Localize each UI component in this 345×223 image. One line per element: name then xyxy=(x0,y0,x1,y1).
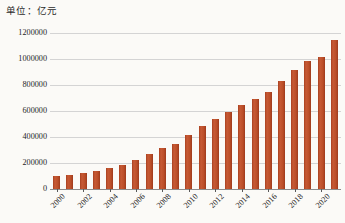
x-tick-mark xyxy=(215,189,216,192)
x-tick-label: 2010 xyxy=(181,192,199,210)
x-tick-label: 2018 xyxy=(287,192,305,210)
bar xyxy=(159,148,166,190)
bar xyxy=(291,70,298,190)
x-tick-mark xyxy=(268,189,269,192)
x-tick-mark xyxy=(189,189,190,192)
bar xyxy=(66,175,73,189)
bar xyxy=(265,92,272,189)
x-tick-mark xyxy=(321,189,322,192)
bar xyxy=(278,81,285,189)
gridline xyxy=(50,59,341,60)
bar xyxy=(119,165,126,189)
bar xyxy=(225,112,232,189)
x-tick-mark xyxy=(295,189,296,192)
x-tick-mark xyxy=(242,189,243,192)
x-tick-label: 2016 xyxy=(261,192,279,210)
gridline xyxy=(50,33,341,34)
x-tick-mark xyxy=(110,189,111,192)
y-tick-label: 1200000 xyxy=(1,28,47,37)
x-tick-mark xyxy=(136,189,137,192)
bar xyxy=(252,99,259,189)
y-tick-label: 0 xyxy=(1,184,47,193)
x-tick-label: 2008 xyxy=(155,192,173,210)
x-tick-label: 2000 xyxy=(49,192,67,210)
y-tick-label: 200000 xyxy=(1,158,47,167)
bar xyxy=(331,40,338,189)
y-axis-labels: 020000040000060000080000010000001200000 xyxy=(0,0,47,223)
bar xyxy=(212,119,219,189)
x-tick-mark xyxy=(162,189,163,192)
x-axis-line xyxy=(50,189,341,190)
x-tick-label: 2012 xyxy=(208,192,226,210)
bar xyxy=(185,135,192,189)
bar xyxy=(199,126,206,189)
y-tick-label: 400000 xyxy=(1,132,47,141)
x-tick-label: 2006 xyxy=(128,192,146,210)
plot-area xyxy=(50,33,341,189)
chart-figure: 单位：亿元 0200000400000600000800000100000012… xyxy=(0,0,345,223)
bar xyxy=(132,160,139,189)
x-tick-label: 2004 xyxy=(102,192,120,210)
bar xyxy=(53,176,60,189)
bar xyxy=(172,144,179,189)
x-tick-mark xyxy=(83,189,84,192)
x-tick-mark xyxy=(57,189,58,192)
x-tick-label: 2014 xyxy=(234,192,252,210)
bar xyxy=(106,168,113,189)
bar xyxy=(93,171,100,189)
y-tick-label: 800000 xyxy=(1,80,47,89)
x-tick-label: 2002 xyxy=(75,192,93,210)
bar xyxy=(80,173,87,189)
y-tick-label: 1000000 xyxy=(1,54,47,63)
bar xyxy=(238,105,245,189)
bar xyxy=(146,154,153,189)
y-tick-label: 600000 xyxy=(1,106,47,115)
x-tick-label: 2020 xyxy=(314,192,332,210)
bar xyxy=(318,57,325,189)
bar xyxy=(304,61,311,189)
